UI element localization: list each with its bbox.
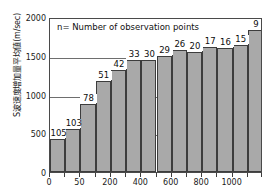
x-tick-label: 1000	[221, 178, 241, 187]
bar	[126, 60, 141, 172]
x-tick-mark	[216, 173, 217, 177]
bar	[187, 52, 202, 172]
bar	[141, 60, 156, 172]
x-tick-mark	[232, 173, 233, 177]
x-tick-label: 600	[163, 178, 178, 187]
bar	[157, 56, 172, 172]
x-tick-mark	[95, 173, 96, 177]
bar-value-label: 29	[157, 46, 173, 55]
x-tick-mark	[79, 173, 80, 177]
bar-value-label: 15	[233, 35, 249, 44]
x-tick-label: 400	[133, 178, 148, 187]
y-tick-label: 500	[16, 130, 46, 139]
x-tick-mark	[49, 173, 50, 177]
bar-value-label: 103	[65, 119, 81, 128]
bar-chart: S波速度増加量平均値(m/sec) 0500100015002000 10510…	[0, 0, 269, 193]
annotation-note: n= Number of observation points	[56, 22, 200, 32]
bar-value-label: 17	[202, 37, 218, 46]
y-tick-label: 1000	[16, 91, 46, 100]
bar-value-label: 105	[50, 129, 66, 138]
x-tick-mark	[156, 173, 157, 177]
bar	[65, 129, 80, 172]
bar-value-label: 16	[217, 38, 233, 47]
plot-area: 10510378514233302926201716159 n= Number …	[49, 18, 262, 173]
x-tick-mark	[186, 173, 187, 177]
bar-value-label: 26	[172, 40, 188, 49]
x-tick-mark	[140, 173, 141, 177]
bar	[50, 139, 65, 172]
x-tick-mark	[171, 173, 172, 177]
bar	[233, 45, 248, 172]
x-tick-mark	[110, 173, 111, 177]
bar-value-label: 33	[126, 50, 142, 59]
x-tick-mark	[125, 173, 126, 177]
x-tick-mark	[261, 173, 262, 177]
x-axis-ticks: 0502004006008001000	[49, 173, 262, 193]
x-tick-mark	[247, 173, 248, 177]
bar	[248, 30, 262, 172]
bar	[217, 48, 232, 172]
x-tick-mark	[201, 173, 202, 177]
bar	[80, 104, 95, 172]
bar-value-label: 30	[141, 50, 157, 59]
bar-value-label: 51	[96, 71, 112, 80]
x-tick-mark	[64, 173, 65, 177]
bar-value-label: 42	[111, 60, 127, 69]
bar-value-label: 78	[80, 94, 96, 103]
y-tick-label: 2000	[16, 14, 46, 23]
y-tick-label: 1500	[16, 52, 46, 61]
bar	[96, 81, 111, 172]
bar	[111, 70, 126, 172]
x-tick-label: 50	[74, 178, 84, 187]
bar-value-label: 20	[187, 42, 203, 51]
bar	[172, 50, 187, 172]
bar-value-label: 9	[248, 20, 262, 29]
y-axis-tick-labels: 0500100015002000	[16, 0, 46, 193]
y-tick-label: 0	[16, 169, 46, 178]
x-tick-label: 200	[102, 178, 117, 187]
bar	[202, 47, 217, 172]
x-tick-label: 800	[194, 178, 209, 187]
x-tick-label: 0	[46, 178, 51, 187]
